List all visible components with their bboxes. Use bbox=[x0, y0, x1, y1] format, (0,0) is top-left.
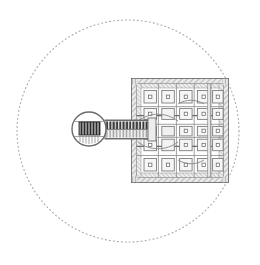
grid-cell bbox=[144, 159, 157, 172]
grid-cell bbox=[213, 91, 224, 104]
grid-cell bbox=[162, 126, 175, 135]
key-head bbox=[72, 112, 106, 146]
grid-cell bbox=[180, 159, 193, 172]
grid-cell bbox=[213, 126, 224, 135]
diagram-svg bbox=[0, 0, 260, 265]
key-shaft-teeth-upper bbox=[106, 122, 150, 130]
key-head-fringe bbox=[80, 135, 98, 144]
grid-cell bbox=[180, 126, 193, 135]
grid-cell bbox=[144, 91, 157, 104]
grid-cell bbox=[180, 139, 193, 151]
grid-cell bbox=[162, 159, 175, 172]
grid-cell bbox=[213, 108, 224, 119]
grid-cell bbox=[180, 108, 193, 119]
key-shaft bbox=[105, 118, 156, 141]
key-shaft-collar bbox=[148, 118, 156, 141]
grid-cell bbox=[213, 159, 224, 172]
grid-cell bbox=[213, 139, 224, 151]
key-shaft-teeth-lower bbox=[106, 130, 150, 138]
grid-cell bbox=[162, 91, 175, 104]
key-head-block bbox=[79, 122, 100, 135]
figure-canvas: Grayscale technical drawing of a key-sha… bbox=[0, 0, 260, 265]
grid-right-riser bbox=[208, 84, 211, 177]
